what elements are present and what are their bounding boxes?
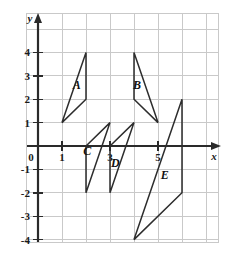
- axes: [27, 13, 221, 242]
- y-tick-label: 3: [25, 70, 31, 82]
- y-tick-label: 1: [25, 117, 31, 129]
- y-tick-label: -2: [21, 187, 31, 199]
- coordinate-plane-figure: 4321-1-2-3-40135 y x ABCDE: [0, 0, 233, 264]
- y-tick-label: 2: [25, 93, 31, 105]
- triangle-label-b: B: [132, 78, 141, 92]
- x-axis-label: x: [210, 150, 217, 162]
- y-axis-arrow: [34, 13, 42, 23]
- triangle-label-d: D: [110, 156, 120, 170]
- y-tick-label: 4: [25, 46, 31, 58]
- grid-lines: [27, 14, 219, 243]
- origin-label: 0: [28, 151, 34, 163]
- y-axis-label: y: [26, 12, 33, 24]
- x-tick-label: 1: [59, 151, 65, 163]
- coordinate-plane-svg: 4321-1-2-3-40135 y x ABCDE: [0, 0, 233, 264]
- triangle-label-e: E: [160, 168, 169, 182]
- triangle-label-c: C: [83, 144, 92, 158]
- y-tick-label: -3: [21, 210, 31, 222]
- y-tick-label: -1: [21, 163, 30, 175]
- y-tick-label: -4: [21, 234, 31, 246]
- plot-frame: [27, 14, 219, 243]
- triangle-label-a: A: [72, 78, 81, 92]
- x-axis-arrow: [211, 142, 221, 150]
